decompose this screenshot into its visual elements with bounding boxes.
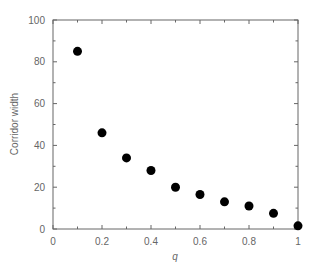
- y-axis-ticks: [53, 20, 298, 229]
- y-tick-label: 40: [34, 140, 46, 151]
- x-tick-label: 0.8: [242, 236, 256, 247]
- data-point: [122, 153, 131, 162]
- data-point: [220, 197, 229, 206]
- data-point: [171, 183, 180, 192]
- y-axis-label: Corridor width: [9, 93, 20, 155]
- data-point: [294, 221, 303, 230]
- data-point: [196, 190, 205, 199]
- data-point: [98, 128, 107, 137]
- x-tick-label: 0.4: [144, 236, 158, 247]
- x-tick-label: 0.2: [95, 236, 109, 247]
- y-tick-label: 0: [39, 224, 45, 235]
- x-tick-label: 0.6: [193, 236, 207, 247]
- scatter-chart: 00.20.40.60.81 020406080100 q Corridor w…: [0, 0, 315, 278]
- y-tick-label: 100: [28, 15, 45, 26]
- y-tick-label: 20: [34, 182, 46, 193]
- data-point: [245, 202, 254, 211]
- x-axis-ticks: [53, 20, 298, 229]
- x-axis-tick-labels: 00.20.40.60.81: [50, 236, 301, 247]
- data-point: [269, 209, 278, 218]
- x-tick-label: 0: [50, 236, 56, 247]
- y-axis-tick-labels: 020406080100: [28, 15, 45, 235]
- x-tick-label: 1: [295, 236, 301, 247]
- data-point: [73, 47, 82, 56]
- data-points: [73, 47, 303, 231]
- data-point: [147, 166, 156, 175]
- plot-frame: [53, 20, 298, 229]
- y-tick-label: 60: [34, 98, 46, 109]
- x-axis-label: q: [172, 251, 178, 262]
- y-tick-label: 80: [34, 56, 46, 67]
